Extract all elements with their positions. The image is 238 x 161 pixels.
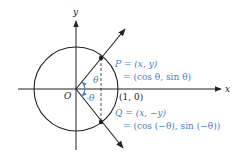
ray-oq [76, 89, 123, 148]
unit-circle-diagram: θ -θ y x O (1, 0) P = (x, y) = (cos θ, s… [0, 0, 238, 161]
angle-neg-theta-arc [82, 89, 85, 96]
y-axis-label: y [72, 7, 79, 17]
point-p-label-line2: = (cos θ, sin θ) [123, 72, 191, 82]
angle-neg-theta-label: -θ [86, 93, 95, 103]
point-p-label-line1: P = (x, y) [114, 59, 158, 69]
angle-theta-label: θ [93, 75, 99, 85]
point-p [99, 56, 103, 60]
origin-label: O [64, 91, 72, 101]
unit-point-label: (1, 0) [119, 92, 143, 102]
point-q [99, 120, 103, 124]
point-q-label-line1: Q = (x, −y) [115, 108, 167, 118]
x-axis-label: x [225, 84, 230, 94]
point-q-label-line2: = (cos (−θ), sin (−θ)) [123, 121, 220, 131]
angle-theta-arc [82, 82, 85, 89]
